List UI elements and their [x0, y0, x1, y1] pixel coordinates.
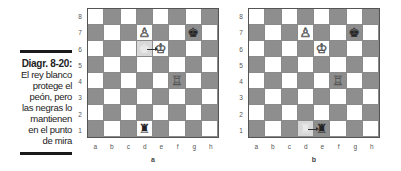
square-a5	[249, 57, 265, 73]
square-d8	[137, 9, 153, 25]
square-f4: ♖	[330, 73, 346, 89]
square-a1	[249, 121, 265, 137]
square-b6	[104, 41, 120, 57]
square-g2	[347, 105, 363, 121]
square-h2	[363, 105, 379, 121]
square-d1: ♜	[298, 121, 314, 137]
square-c4	[282, 73, 298, 89]
square-e3	[314, 89, 330, 105]
square-b3	[104, 89, 120, 105]
square-f8	[169, 9, 185, 25]
diagram-caption: Diagr. 8-20: El rey blanco protege el pe…	[8, 50, 72, 155]
square-f5	[169, 57, 185, 73]
white-rook-icon: ♖	[332, 74, 344, 87]
square-f5	[330, 57, 346, 73]
caption-line: en el punto	[8, 124, 72, 135]
file-label: b	[265, 143, 282, 150]
square-e5	[314, 57, 330, 73]
square-a5	[88, 57, 104, 73]
square-e5	[153, 57, 169, 73]
square-a6	[88, 41, 104, 57]
file-label: a	[87, 143, 104, 150]
file-label: c	[281, 143, 298, 150]
square-h3	[363, 89, 379, 105]
square-d7: ♙	[137, 25, 153, 41]
square-d1: ♜	[137, 121, 153, 137]
square-a2	[249, 105, 265, 121]
rank-label: 2	[236, 111, 246, 118]
square-e2	[314, 105, 330, 121]
move-arrow-icon	[147, 49, 155, 50]
diagram-label: a	[87, 156, 219, 163]
square-a4	[88, 73, 104, 89]
file-label: f	[170, 143, 187, 150]
square-d4	[298, 73, 314, 89]
file-label: h	[203, 143, 220, 150]
square-e3	[153, 89, 169, 105]
square-b1	[265, 121, 281, 137]
rank-label: 3	[236, 94, 246, 101]
square-a7	[88, 25, 104, 41]
square-g4	[186, 73, 202, 89]
square-c4	[121, 73, 137, 89]
square-g3	[186, 89, 202, 105]
square-c2	[282, 105, 298, 121]
square-c5	[121, 57, 137, 73]
chess-diagram-b: 87654321♙♚♔♖♜♜abcdefghb	[236, 0, 386, 171]
diagram-label: b	[248, 156, 380, 163]
rank-label: 5	[75, 62, 85, 69]
square-a7	[249, 25, 265, 41]
square-b5	[265, 57, 281, 73]
square-h5	[202, 57, 218, 73]
chessboard: ♙♚♔♖♜♜	[248, 8, 380, 138]
square-f3	[169, 89, 185, 105]
square-h4	[363, 73, 379, 89]
square-d7: ♙	[298, 25, 314, 41]
square-b5	[104, 57, 120, 73]
square-d5	[298, 57, 314, 73]
rank-label: 8	[75, 13, 85, 20]
square-f7	[330, 25, 346, 41]
square-d3	[137, 89, 153, 105]
square-g5	[347, 57, 363, 73]
black-rook-icon: ♜	[139, 122, 151, 135]
caption-line: protege el	[8, 80, 72, 91]
square-g1	[186, 121, 202, 137]
square-f6	[330, 41, 346, 57]
square-b2	[104, 105, 120, 121]
file-label: f	[331, 143, 348, 150]
rank-label: 3	[75, 94, 85, 101]
white-king-icon: ♔	[316, 42, 328, 55]
square-b8	[265, 9, 281, 25]
caption-line: El rey blanco	[8, 69, 72, 80]
file-label: g	[186, 143, 203, 150]
square-h8	[202, 9, 218, 25]
file-label: c	[120, 143, 137, 150]
rank-label: 7	[75, 29, 85, 36]
square-h7	[202, 25, 218, 41]
file-label: a	[248, 143, 265, 150]
square-g8	[186, 9, 202, 25]
square-e8	[153, 9, 169, 25]
rank-label: 8	[236, 13, 246, 20]
file-label: d	[298, 143, 315, 150]
rank-label: 6	[75, 46, 85, 53]
file-label: e	[153, 143, 170, 150]
rank-label: 5	[236, 62, 246, 69]
square-g4	[347, 73, 363, 89]
square-e8	[314, 9, 330, 25]
square-g3	[347, 89, 363, 105]
white-rook-icon: ♖	[171, 74, 183, 87]
square-c6	[121, 41, 137, 57]
rank-label: 2	[75, 111, 85, 118]
move-arrow-icon	[308, 129, 316, 130]
square-c1	[282, 121, 298, 137]
caption-rule-top	[20, 50, 72, 53]
square-h1	[202, 121, 218, 137]
rank-label: 1	[75, 127, 85, 134]
white-pawn-icon: ♙	[139, 26, 151, 39]
file-label: d	[137, 143, 154, 150]
square-h2	[202, 105, 218, 121]
square-b6	[265, 41, 281, 57]
caption-line: mantienen	[8, 113, 72, 124]
